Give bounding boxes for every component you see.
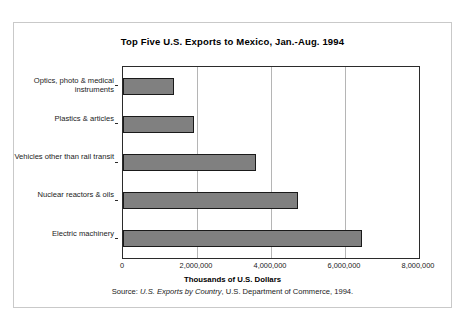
chart-title: Top Five U.S. Exports to Mexico, Jan.-Au… (14, 36, 451, 47)
bar (123, 192, 298, 209)
bar-row (123, 143, 256, 181)
y-axis-tick (115, 238, 118, 239)
category-axis-labels: Optics, photo & medical instrumentsPlast… (14, 66, 118, 259)
plot-area (122, 66, 420, 259)
chart-frame: Top Five U.S. Exports to Mexico, Jan.-Au… (13, 22, 452, 308)
category-label: Nuclear reactors & oils (14, 190, 114, 199)
bar-row (123, 67, 174, 105)
bar (123, 230, 362, 247)
source-prefix: Source: (112, 287, 140, 296)
bar (123, 78, 174, 95)
x-axis-tick-label: 2,000,000 (180, 261, 213, 270)
bar-row (123, 182, 298, 220)
category-label: Optics, photo & medical instruments (14, 76, 114, 95)
x-axis-tick-label: 0 (120, 261, 124, 270)
bar-row (123, 105, 194, 143)
source-publication: U.S. Exports by Country (140, 287, 221, 296)
source-note: Source: U.S. Exports by Country, U.S. De… (14, 287, 451, 296)
y-axis-tick (115, 200, 118, 201)
category-label: Vehicles other than rail transit (14, 152, 114, 161)
x-axis-tick-label: 6,000,000 (328, 261, 361, 270)
bar (123, 154, 256, 171)
bar (123, 116, 194, 133)
x-axis-tick-labels: 02,000,0004,000,0006,000,0008,000,000 (122, 261, 420, 273)
x-axis-tick-label: 4,000,000 (254, 261, 287, 270)
category-label: Plastics & articles (14, 114, 114, 123)
y-axis-tick (115, 123, 118, 124)
source-suffix: , U.S. Department of Commerce, 1994. (222, 287, 354, 296)
y-axis-tick (115, 162, 118, 163)
bar-row (123, 220, 362, 258)
x-axis-title: Thousands of U.S. Dollars (14, 275, 451, 284)
y-axis-tick (115, 85, 118, 86)
category-label: Electric machinery (14, 229, 114, 238)
x-axis-tick-label: 8,000,000 (402, 261, 435, 270)
